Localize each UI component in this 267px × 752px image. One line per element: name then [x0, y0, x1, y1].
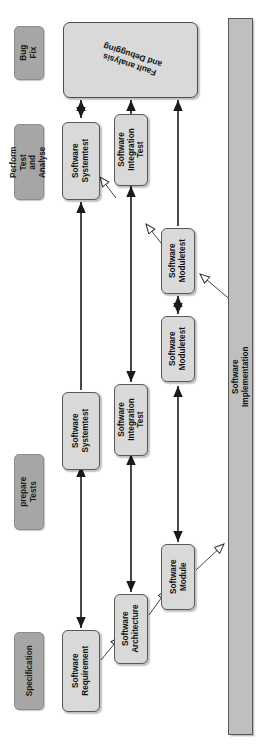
fault-analysis-box[interactable]: Fault analysis and Debugging	[63, 22, 198, 98]
box-software-moduletest-prepare[interactable]: Software Moduletest	[161, 316, 195, 382]
box-software-module-label: Software Module	[168, 560, 187, 595]
phase-label-specification-text: Specification	[24, 646, 34, 697]
box-software-moduletest-prepare-label: Software Moduletest	[168, 327, 187, 370]
box-software-integration-test-perform[interactable]: Software Integration Test	[114, 114, 148, 186]
box-software-module[interactable]: Software Module	[161, 544, 195, 610]
box-software-architecture[interactable]: Software Architecture	[114, 594, 148, 664]
box-software-requirement-label: Software Requirement	[71, 646, 90, 696]
phase-label-prepare-tests-text: prepare Tests	[19, 477, 38, 507]
box-software-moduletest-perform[interactable]: Software Moduletest	[161, 228, 195, 294]
phase-label-specification: Specification	[14, 632, 44, 710]
phase-label-bug-fix: Bug Fix	[14, 26, 44, 80]
conn-module-implementation	[196, 544, 224, 570]
box-software-integration-test-prepare-label: Software Integration Test	[116, 399, 145, 441]
phase-label-bug-fix-text: Bug Fix	[19, 39, 38, 67]
phase-label-perform-test-and-analyse: Perform Test and Analyse	[14, 124, 44, 200]
software-implementation-bar[interactable]: Software Implementation	[228, 18, 253, 735]
software-implementation-label: Software Implementation	[231, 346, 250, 407]
box-software-systemtest-prepare[interactable]: Software Systemtest	[62, 392, 100, 470]
box-software-systemtest-perform[interactable]: Software Systemtest	[62, 122, 100, 200]
fault-analysis-label: Fault analysis and Debugging	[98, 41, 162, 79]
box-software-integration-test-perform-label: Software Integration Test	[116, 129, 145, 171]
phase-label-prepare-tests: prepare Tests	[14, 454, 44, 530]
box-software-integration-test-prepare[interactable]: Software Integration Test	[114, 384, 148, 456]
box-software-architecture-label: Software Architecture	[121, 605, 140, 653]
box-software-systemtest-prepare-label: Software Systemtest	[71, 409, 90, 453]
box-software-systemtest-perform-label: Software Systemtest	[71, 139, 90, 183]
phase-label-perform-test-and-analyse-text: Perform Test and Analyse	[10, 146, 49, 177]
box-software-moduletest-perform-label: Software Moduletest	[168, 239, 187, 282]
box-software-requirement[interactable]: Software Requirement	[62, 630, 100, 712]
v-model-diagram: Bug Fix Perform Test and Analyse prepare…	[0, 0, 267, 752]
